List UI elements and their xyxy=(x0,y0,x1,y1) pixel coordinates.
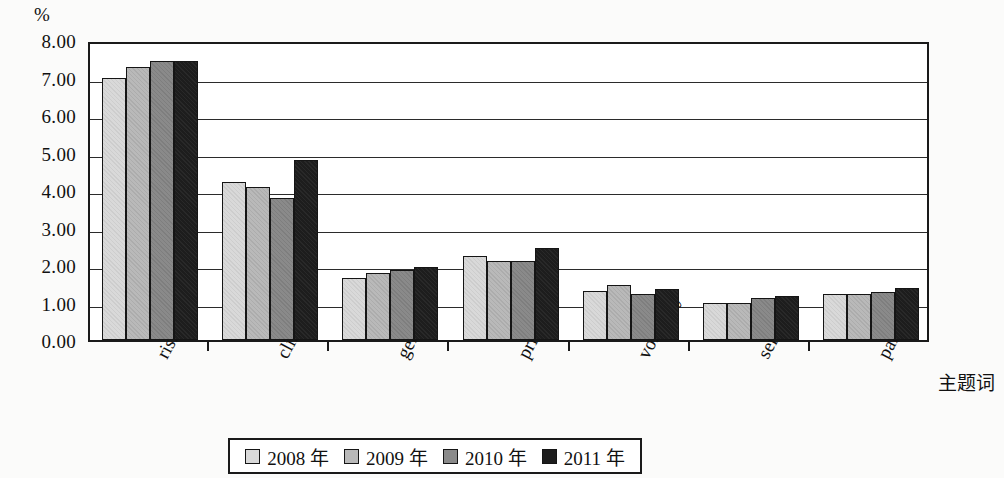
bar xyxy=(174,61,198,340)
bar xyxy=(463,256,487,340)
legend-item[interactable]: 2009 年 xyxy=(344,443,428,470)
legend-label: 2008 年 xyxy=(267,443,329,470)
bar xyxy=(655,289,679,340)
bar xyxy=(150,61,174,340)
bar xyxy=(270,198,294,340)
bar xyxy=(390,270,414,341)
x-axis-tick xyxy=(207,342,209,351)
bar xyxy=(487,261,511,341)
legend-label: 2010 年 xyxy=(465,443,527,470)
bar xyxy=(871,292,895,340)
bar xyxy=(703,303,727,341)
legend-item[interactable]: 2011 年 xyxy=(542,443,625,470)
x-axis-tick xyxy=(327,342,329,351)
bar xyxy=(583,291,607,340)
bar xyxy=(414,267,438,341)
chart-legend: 2008 年2009 年2010 年2011 年 xyxy=(228,438,642,474)
bar xyxy=(631,294,655,340)
bar-group xyxy=(102,44,198,340)
x-axis-tick xyxy=(447,342,449,351)
x-axis-tick xyxy=(568,342,570,351)
bar xyxy=(607,285,631,341)
legend-swatch-icon xyxy=(542,449,557,464)
bar xyxy=(751,298,775,340)
bar xyxy=(727,303,751,341)
x-axis-tick xyxy=(688,342,690,351)
bar xyxy=(366,273,390,341)
legend-label: 2011 年 xyxy=(564,443,625,470)
bar xyxy=(847,294,871,340)
bar xyxy=(775,296,799,340)
bar xyxy=(102,78,126,340)
legend-swatch-icon xyxy=(344,449,359,464)
legend-swatch-icon xyxy=(245,449,260,464)
bar xyxy=(535,248,559,340)
x-axis-tick xyxy=(808,342,810,351)
bar xyxy=(294,160,318,340)
legend-label: 2009 年 xyxy=(366,443,428,470)
legend-swatch-icon xyxy=(443,449,458,464)
bar xyxy=(246,187,270,340)
legend-item[interactable]: 2008 年 xyxy=(245,443,329,470)
x-axis-title: 主题词 xyxy=(938,368,995,395)
bar xyxy=(222,182,246,340)
bar xyxy=(126,67,150,340)
bar xyxy=(342,278,366,340)
bar xyxy=(511,261,535,340)
bar-chart-figure: % 0.001.002.003.004.005.006.007.008.00 r… xyxy=(0,0,1004,478)
legend-item[interactable]: 2010 年 xyxy=(443,443,527,470)
bar xyxy=(895,288,919,341)
bar xyxy=(823,294,847,340)
